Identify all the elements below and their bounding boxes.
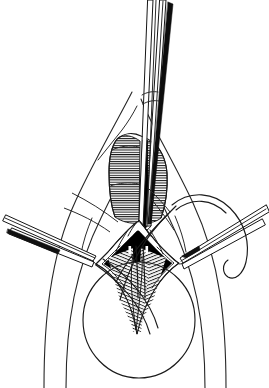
- exposed-tissue-left: [109, 136, 140, 224]
- illustration-root: Surgical procedure line illustration Mid…: [0, 0, 269, 388]
- surgical-illustration: Surgical procedure line illustration Mid…: [0, 0, 269, 388]
